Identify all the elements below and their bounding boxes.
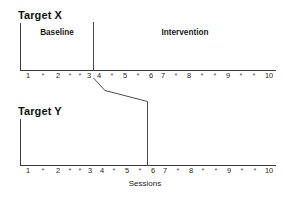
x-tick-label: 2 (56, 71, 60, 80)
x-tick-label: 3 (87, 71, 91, 80)
x-tick-label: * (42, 166, 45, 175)
x-tick-label: 7 (161, 71, 165, 80)
x-tick-label: * (175, 71, 178, 80)
x-tick-label: * (254, 166, 257, 175)
x-tick-label: 3 (88, 166, 92, 175)
x-tick-label: 10 (265, 71, 273, 80)
x-tick-label: 1 (26, 71, 30, 80)
x-tick-label: 6 (151, 166, 155, 175)
x-tick-label: 1 (26, 166, 30, 175)
x-tick-label: 4 (100, 166, 104, 175)
panel-title-target-x: Target X (18, 9, 63, 21)
phase-label-baseline: Baseline (40, 28, 74, 37)
x-tick-label: * (79, 166, 82, 175)
x-tick-labels-target-x: 1 * 2 * * 3 4 * 5 * 6 7 * 8 * * 9 * * 10 (26, 71, 273, 80)
x-tick-label: * (139, 166, 142, 175)
x-tick-label: * (240, 71, 243, 80)
x-tick-label: * (79, 71, 82, 80)
x-tick-label: * (201, 71, 204, 80)
x-tick-label: * (113, 166, 116, 175)
x-tick-label: * (241, 166, 244, 175)
x-tick-label: 9 (227, 166, 231, 175)
x-tick-label: 4 (97, 71, 101, 80)
multiple-baseline-figure: Target X Baseline Intervention 1 * 2 * *… (0, 0, 282, 197)
panel-title-target-y: Target Y (18, 105, 62, 117)
x-axis-title: Sessions (129, 179, 161, 188)
x-tick-label: * (137, 71, 140, 80)
x-tick-label: 2 (56, 166, 60, 175)
x-tick-label: 8 (187, 71, 191, 80)
x-tick-label: * (214, 71, 217, 80)
x-tick-label: * (69, 71, 72, 80)
x-tick-labels-target-y: 1 * 2 * * 3 4 * 5 * 6 7 * 8 * * 9 * * 10 (26, 166, 273, 175)
phase-connector-line (94, 78, 148, 118)
x-tick-label: * (69, 166, 72, 175)
panel-target-x: Target X Baseline Intervention 1 * 2 * *… (18, 9, 276, 80)
x-tick-label: 10 (265, 166, 273, 175)
x-tick-label: 5 (125, 166, 129, 175)
x-tick-label: * (202, 166, 205, 175)
x-tick-label: 6 (149, 71, 153, 80)
x-tick-label: * (215, 166, 218, 175)
phase-label-intervention: Intervention (162, 28, 209, 37)
x-tick-label: 9 (226, 71, 230, 80)
x-tick-label: * (253, 71, 256, 80)
x-tick-label: * (42, 71, 45, 80)
x-tick-label: 7 (163, 166, 167, 175)
x-tick-label: * (111, 71, 114, 80)
x-tick-label: 8 (189, 166, 193, 175)
x-tick-label: * (177, 166, 180, 175)
figure-canvas: Target X Baseline Intervention 1 * 2 * *… (0, 0, 282, 197)
x-tick-label: 5 (123, 71, 127, 80)
